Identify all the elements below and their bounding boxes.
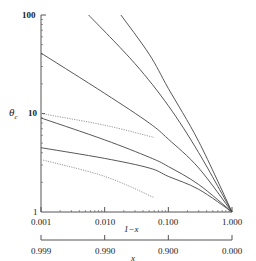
x2-axis-label: x [131,253,135,261]
y-tick-label-100: 100 [22,10,36,20]
curve-dotted-1 [41,114,154,138]
x2-tick-label-0900: 0.900 [158,246,178,256]
x-tick-label-0010: 0.010 [95,217,115,227]
x2-tick-label-0999: 0.999 [31,246,51,256]
x2-tick-label-0990: 0.990 [95,246,115,256]
x-tick-label-0100: 0.100 [158,217,178,227]
x-axis-label: 1−x [124,224,139,234]
x2-tick-label-0000: 0.000 [222,246,242,256]
y-tick-label-1: 1 [33,207,38,217]
curve-solid-5 [41,148,232,212]
y-tick-label-10: 10 [28,108,37,118]
curves [41,15,232,212]
y-axis-label: θc [9,107,18,122]
y-axis-label-sub: c [14,113,17,121]
x-tick-label-1000: 1.000 [222,217,242,227]
x-tick-label-0001: 0.001 [31,217,51,227]
